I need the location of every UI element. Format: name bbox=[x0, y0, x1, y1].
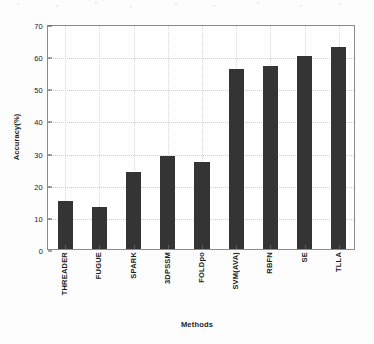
x-tick-label-svm-ava: SVM(AVA) bbox=[231, 252, 240, 290]
x-tick-mark-0 bbox=[65, 245, 66, 249]
x-tick-label-rbfn: RBFN bbox=[265, 252, 274, 274]
y-tick-label-0: 0 bbox=[39, 247, 43, 256]
x-tick-mark-2 bbox=[134, 245, 135, 249]
x-axis-title: Methods bbox=[10, 320, 374, 329]
y-tick-label-10: 10 bbox=[34, 214, 43, 223]
y-axis-title: Accuracy(%) bbox=[12, 114, 21, 161]
bar-threader bbox=[58, 201, 73, 249]
y-tick-mark-60 bbox=[48, 58, 52, 59]
bar-se bbox=[297, 56, 312, 249]
y-tick-mark-30 bbox=[48, 154, 52, 155]
x-tick-mark-4 bbox=[202, 245, 203, 249]
bar-svm-ava bbox=[229, 69, 244, 249]
y-tick-mark-50 bbox=[48, 90, 52, 91]
x-tick-label-3dpssm: 3DPSSM bbox=[163, 252, 172, 284]
bar-3dpssm bbox=[160, 156, 175, 249]
y-tick-label-40: 40 bbox=[34, 118, 43, 127]
x-tick-label-tlla: TLLA bbox=[334, 252, 343, 272]
x-tick-mark-8 bbox=[339, 245, 340, 249]
bar-chart-figure: Accuracy(%) 010203040506070 THREADERFUGU… bbox=[0, 0, 374, 344]
y-tick-mark-40 bbox=[48, 122, 52, 123]
x-tick-mark-3 bbox=[168, 245, 169, 249]
x-tick-label-se: SE bbox=[300, 252, 309, 262]
x-tick-mark-7 bbox=[305, 245, 306, 249]
x-tick-mark-5 bbox=[236, 245, 237, 249]
y-tick-mark-10 bbox=[48, 218, 52, 219]
y-tick-mark-0 bbox=[48, 251, 52, 252]
plot-area: 010203040506070 bbox=[47, 25, 355, 250]
x-tick-mark-1 bbox=[99, 245, 100, 249]
y-tick-label-30: 30 bbox=[34, 150, 43, 159]
x-tick-label-fugue: FUGUE bbox=[94, 252, 103, 279]
x-tick-label-foldpo: FOLDpo bbox=[197, 252, 206, 283]
x-tick-label-spark: SPARK bbox=[129, 252, 138, 279]
bar-foldpo bbox=[194, 162, 209, 249]
bar-fugue bbox=[92, 207, 107, 249]
bar-tlla bbox=[331, 47, 346, 250]
x-tick-mark-6 bbox=[270, 245, 271, 249]
y-tick-mark-70 bbox=[48, 26, 52, 27]
y-tick-mark-20 bbox=[48, 186, 52, 187]
x-tick-label-threader: THREADER bbox=[60, 252, 69, 295]
bar-spark bbox=[126, 172, 141, 249]
y-tick-label-50: 50 bbox=[34, 86, 43, 95]
scan-artifact bbox=[0, 0, 374, 10]
bar-rbfn bbox=[263, 66, 278, 249]
y-tick-label-70: 70 bbox=[34, 22, 43, 31]
y-tick-label-20: 20 bbox=[34, 182, 43, 191]
y-tick-label-60: 60 bbox=[34, 54, 43, 63]
